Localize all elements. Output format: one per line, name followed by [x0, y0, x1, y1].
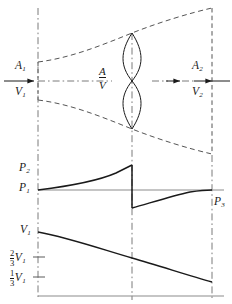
label-inlet-area: A1: [15, 60, 26, 73]
streamtube-lower-boundary: [38, 100, 212, 154]
velocity-curve: [38, 232, 212, 282]
label-velocity-v1: V1: [20, 224, 31, 237]
label-outlet-area: A2: [192, 60, 203, 73]
figure-root: A1 V1 A V A2 V2 P2 P1 P3 V1 23V1 13V1: [0, 0, 232, 304]
diagram-canvas: [0, 0, 232, 304]
pressure-rise-curve: [38, 165, 132, 190]
label-pressure-p2: P2: [19, 162, 30, 175]
label-velocity-one-third-v1: 13V1: [10, 269, 26, 288]
label-velocity-two-thirds-v1: 23V1: [10, 249, 26, 268]
label-rotor-area-velocity: A V: [99, 66, 106, 91]
label-pressure-p1: P1: [19, 182, 30, 195]
label-inlet-velocity: V1: [15, 86, 26, 99]
label-pressure-p3: P3: [214, 196, 225, 209]
label-outlet-velocity: V2: [192, 86, 203, 99]
pressure-recovery-curve: [132, 190, 212, 208]
streamtube-upper-boundary: [38, 8, 212, 62]
